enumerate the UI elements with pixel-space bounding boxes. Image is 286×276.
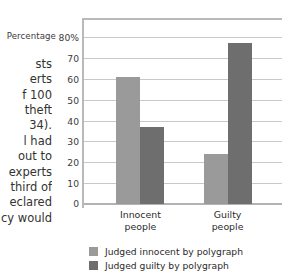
x-axis-category-label-line: people xyxy=(212,221,244,233)
gridline: 50 xyxy=(84,100,282,101)
bar-chart: Percentage 80%706050403020100Innocentpeo… xyxy=(0,0,286,276)
gridline: 20 xyxy=(84,162,282,163)
y-axis-tick-label: 80% xyxy=(59,32,79,43)
y-axis-tick-label: 40 xyxy=(67,115,79,126)
gridline: 10 xyxy=(84,183,282,184)
legend-swatch-judged-guilty xyxy=(89,261,98,270)
y-axis-tick-label: 10 xyxy=(67,178,79,189)
x-axis-category-label-line: Guilty xyxy=(212,209,244,221)
bar-judged-guilty xyxy=(140,127,164,204)
legend-label: Judged innocent by polygraph xyxy=(105,246,243,257)
y-axis-tick-label: 20 xyxy=(67,157,79,168)
x-axis-category-label-line: people xyxy=(120,221,161,233)
y-axis-tick-label: 50 xyxy=(67,94,79,105)
gridline: 30 xyxy=(84,141,282,142)
bar-judged-innocent xyxy=(116,77,140,204)
y-axis-title: Percentage xyxy=(0,31,56,41)
gridline: 60 xyxy=(84,79,282,80)
x-axis-category-label: Innocentpeople xyxy=(120,209,161,232)
gridline: 70 xyxy=(84,58,282,59)
legend-item: Judged guilty by polygraph xyxy=(89,258,243,272)
x-axis-category-label-line: Innocent xyxy=(120,209,161,221)
y-axis-tick-label: 30 xyxy=(67,136,79,147)
gridline: 80% xyxy=(84,37,282,38)
y-axis-tick-label: 0 xyxy=(73,198,79,209)
legend-item: Judged innocent by polygraph xyxy=(89,244,243,258)
legend-label: Judged guilty by polygraph xyxy=(105,260,229,271)
plot-area: 80%706050403020100InnocentpeopleGuiltype… xyxy=(84,37,282,204)
gridline: 40 xyxy=(84,121,282,122)
bar-judged-innocent xyxy=(204,154,228,204)
y-axis-tick-label: 70 xyxy=(67,52,79,63)
chart-legend: Judged innocent by polygraphJudged guilt… xyxy=(89,244,243,272)
bar-judged-guilty xyxy=(228,43,252,204)
y-axis-tick-label: 60 xyxy=(67,73,79,84)
gridline: 0 xyxy=(84,203,282,205)
x-axis-category-label: Guiltypeople xyxy=(212,209,244,232)
legend-swatch-judged-innocent xyxy=(89,247,98,256)
